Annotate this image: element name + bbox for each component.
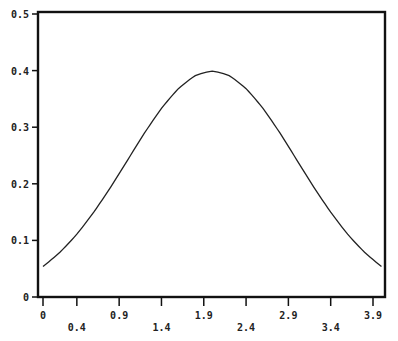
density-curve xyxy=(43,71,381,266)
y-tick-label: 0.5 xyxy=(11,9,29,20)
y-tick-label: 0.3 xyxy=(11,122,29,133)
x-tick-label: 0 xyxy=(40,310,46,321)
x-tick-label: 0.4 xyxy=(68,322,86,333)
x-tick-label: 3.4 xyxy=(322,322,340,333)
x-tick-label: 1.4 xyxy=(152,322,170,333)
y-tick-label: 0 xyxy=(23,292,29,303)
y-tick-label: 0.4 xyxy=(11,66,29,77)
x-tick-label: 1.9 xyxy=(195,310,213,321)
y-tick-label: 0.1 xyxy=(11,235,29,246)
line-chart: 00.10.20.30.40.5 00.40.91.41.92.42.93.43… xyxy=(0,0,398,341)
x-tick-label: 2.9 xyxy=(279,310,297,321)
x-axis: 00.40.91.41.92.42.93.43.9 xyxy=(40,297,382,333)
y-axis: 00.10.20.30.40.5 xyxy=(11,9,38,303)
plot-frame xyxy=(38,12,385,297)
x-tick-label: 2.4 xyxy=(237,322,255,333)
x-tick-label: 3.9 xyxy=(364,310,382,321)
x-tick-label: 0.9 xyxy=(110,310,128,321)
y-tick-label: 0.2 xyxy=(11,179,29,190)
